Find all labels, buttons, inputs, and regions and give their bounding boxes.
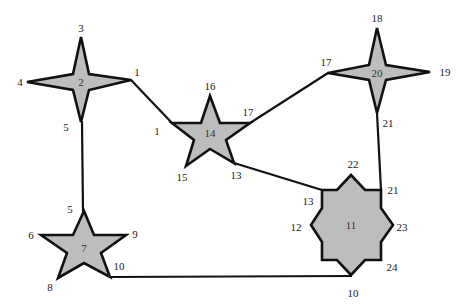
vertex-label: 18 xyxy=(372,12,384,24)
nodes-layer: 21420117 xyxy=(27,28,430,278)
vertex-label: 13 xyxy=(303,195,315,207)
vertex-label: 1 xyxy=(134,66,140,78)
vertex-label: 9 xyxy=(132,228,138,240)
vertex-label: 5 xyxy=(67,203,73,215)
vertex-label: 10 xyxy=(348,287,360,299)
vertex-label: 17 xyxy=(321,56,333,68)
node-label: 14 xyxy=(205,127,217,139)
vertex-label: 4 xyxy=(17,76,23,88)
vertex-label: 24 xyxy=(387,261,399,273)
vertex-label: 12 xyxy=(291,221,302,233)
edge-2-14 xyxy=(131,80,172,123)
edge-14-20 xyxy=(250,73,328,123)
node-20: 20 xyxy=(328,28,430,113)
vertex-label: 21 xyxy=(388,184,399,196)
vertex-label: 8 xyxy=(47,281,53,293)
node-label: 7 xyxy=(81,242,87,254)
vertex-label: 23 xyxy=(397,221,409,233)
edge-7-11 xyxy=(110,276,351,277)
diagram-svg: 21420117 3415161711513181719212221131223… xyxy=(0,0,464,308)
vertex-label: 3 xyxy=(78,22,84,34)
vertex-label: 1 xyxy=(154,125,160,137)
vertex-label: 10 xyxy=(114,260,126,272)
vertex-label: 16 xyxy=(205,80,217,92)
edge-20-11 xyxy=(377,113,381,190)
vertex-label: 15 xyxy=(177,171,189,183)
edge-14-11 xyxy=(234,163,322,190)
node-label: 11 xyxy=(346,219,357,231)
node-14: 14 xyxy=(172,96,250,166)
vertex-label: 6 xyxy=(28,229,34,241)
vertex-label: 22 xyxy=(348,158,359,170)
vertex-label: 13 xyxy=(231,169,243,181)
vertex-label: 21 xyxy=(383,117,394,129)
node-2: 2 xyxy=(27,37,131,122)
graph-diagram: 21420117 3415161711513181719212221131223… xyxy=(0,0,464,308)
node-11: 11 xyxy=(311,175,393,275)
node-label: 2 xyxy=(78,76,84,88)
node-label: 20 xyxy=(372,67,384,79)
edge-2-7 xyxy=(82,122,83,211)
vertex-label: 17 xyxy=(243,106,255,118)
vertex-label: 19 xyxy=(440,66,452,78)
vertex-label: 5 xyxy=(63,121,69,133)
